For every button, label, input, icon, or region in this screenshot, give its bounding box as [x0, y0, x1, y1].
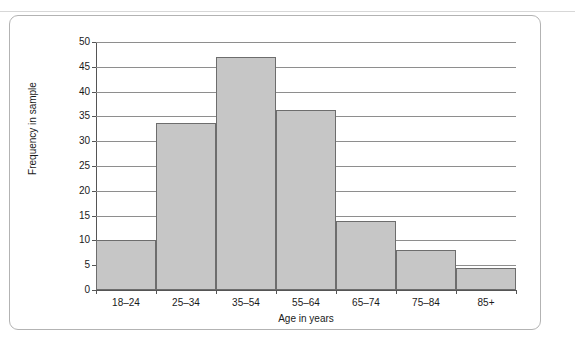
- x-axis-title: Age in years: [96, 313, 516, 324]
- x-tick-mark-5: [396, 290, 397, 294]
- bar-18–24: [96, 240, 156, 290]
- y-tick-label-50: 50: [64, 37, 90, 47]
- x-tick-label-25–34: 25–34: [156, 297, 216, 309]
- y-tick-mark-25: [92, 166, 96, 167]
- y-tick-label-20: 20: [64, 186, 90, 196]
- y-tick-label-45: 45: [64, 62, 90, 72]
- y-tick-mark-5: [92, 265, 96, 266]
- x-tick-mark-4: [336, 290, 337, 294]
- plot-area: [96, 42, 516, 290]
- x-tick-mark-2: [216, 290, 217, 294]
- y-tick-mark-15: [92, 216, 96, 217]
- y-tick-label-25: 25: [64, 161, 90, 171]
- y-tick-label-0: 0: [64, 285, 90, 295]
- y-tick-label-40: 40: [64, 87, 90, 97]
- x-tick-mark-7: [516, 290, 517, 294]
- y-tick-mark-0: [92, 290, 96, 291]
- x-tick-mark-3: [276, 290, 277, 294]
- y-tick-label-5: 5: [64, 260, 90, 270]
- bar-25–34: [156, 123, 216, 290]
- y-axis-title: Frequency in sample: [27, 59, 38, 199]
- x-tick-mark-6: [456, 290, 457, 294]
- x-axis-spine: [96, 290, 517, 291]
- y-tick-label-35: 35: [64, 111, 90, 121]
- x-tick-label-85+: 85+: [456, 297, 516, 309]
- y-axis-tick-labels: 05101520253035404550: [60, 42, 90, 290]
- bar-85+: [456, 268, 516, 290]
- y-tick-label-15: 15: [64, 211, 90, 221]
- y-tick-mark-40: [92, 92, 96, 93]
- y-tick-mark-50: [92, 42, 96, 43]
- y-tick-label-30: 30: [64, 136, 90, 146]
- bar-35–54: [216, 57, 276, 290]
- y-tick-mark-30: [92, 141, 96, 142]
- y-tick-mark-35: [92, 116, 96, 117]
- histogram-chart: Frequency in sample 05101520253035404550…: [0, 0, 575, 344]
- x-tick-label-55–64: 55–64: [276, 297, 336, 309]
- x-tick-mark-1: [156, 290, 157, 294]
- bar-55–64: [276, 110, 336, 290]
- x-tick-label-75–84: 75–84: [396, 297, 456, 309]
- y-tick-mark-10: [92, 240, 96, 241]
- x-tick-label-18–24: 18–24: [96, 297, 156, 309]
- bar-65–74: [336, 221, 396, 290]
- bar-75–84: [396, 250, 456, 290]
- y-tick-label-10: 10: [64, 235, 90, 245]
- y-tick-mark-45: [92, 67, 96, 68]
- bar-series: [96, 42, 516, 290]
- x-tick-label-65–74: 65–74: [336, 297, 396, 309]
- x-tick-label-35–54: 35–54: [216, 297, 276, 309]
- x-tick-mark-0: [96, 290, 97, 294]
- y-tick-mark-20: [92, 191, 96, 192]
